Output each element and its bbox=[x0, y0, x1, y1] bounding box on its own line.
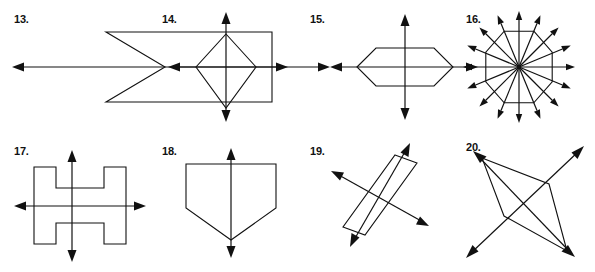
symmetry-axis-diagonal-1 bbox=[473, 151, 575, 257]
figure-20-drawing bbox=[0, 0, 595, 272]
worksheet-canvas: 13. 14. bbox=[0, 0, 595, 272]
figure-20 bbox=[0, 0, 595, 272]
